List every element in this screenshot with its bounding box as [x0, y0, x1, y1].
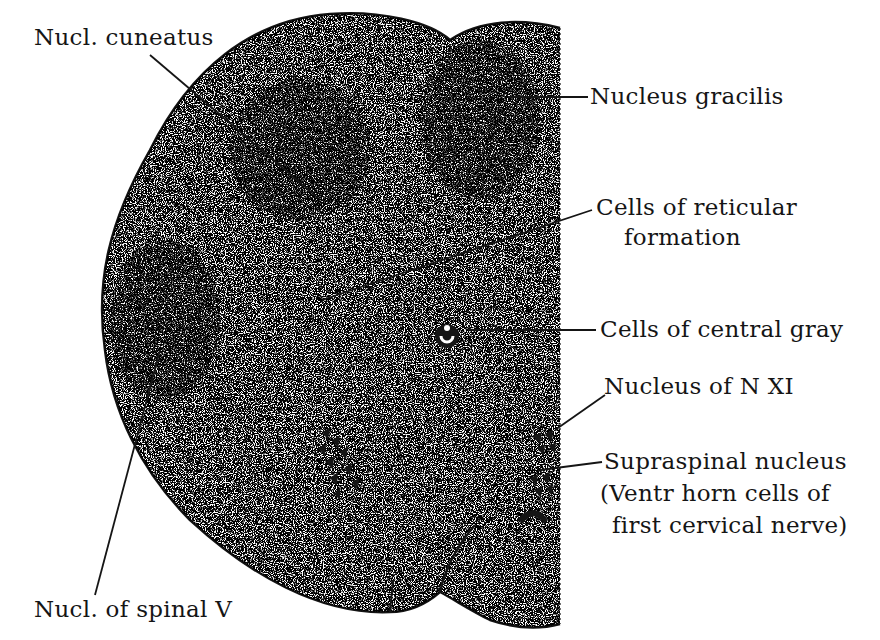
label-supraspinal-line2: (Ventr horn cells of — [600, 480, 830, 507]
label-nucleus-gracilis: Nucleus gracilis — [590, 83, 784, 110]
label-central-gray: Cells of central gray — [600, 316, 843, 343]
label-nucleus-n-xi: Nucleus of N XI — [604, 373, 794, 400]
label-reticular-line1: Cells of reticular — [596, 194, 797, 221]
leader-nucleus-n-xi — [555, 395, 605, 430]
label-spinal-v: Nucl. of spinal V — [34, 596, 232, 623]
stippled-tissue — [90, 10, 560, 630]
central-canal — [435, 324, 459, 348]
label-reticular-line2: formation — [624, 224, 741, 251]
label-supraspinal-line1: Supraspinal nucleus — [604, 448, 847, 475]
label-supraspinal-line3: first cervical nerve) — [612, 512, 848, 539]
label-nucl-cuneatus: Nucl. cuneatus — [34, 24, 214, 51]
